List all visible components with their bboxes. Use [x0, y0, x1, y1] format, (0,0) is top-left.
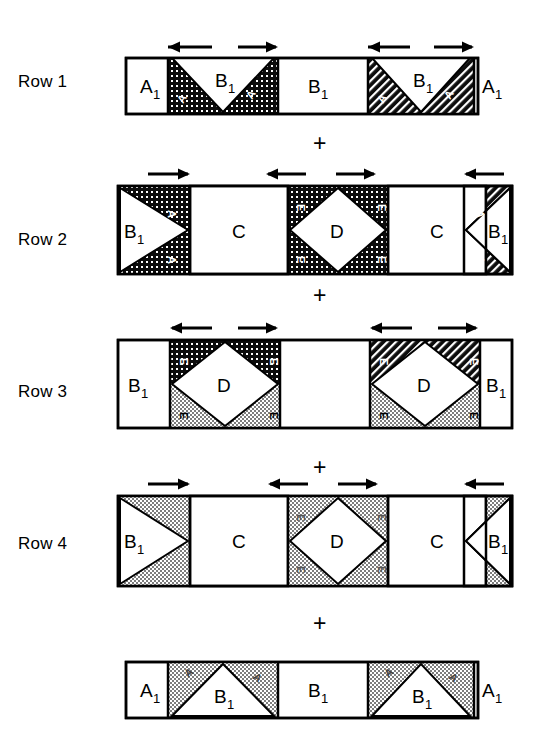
- row-4-label: Row 4: [18, 534, 67, 554]
- cell-sub-b1-right: 1: [426, 81, 433, 96]
- row-5-band: A 1 B 1 B 1 B 1 A 1 A A A A: [126, 662, 502, 718]
- e-tag-tl: E: [295, 204, 307, 211]
- row-2-arrow-markers: [148, 169, 504, 180]
- row-3-arrow-markers: [170, 323, 478, 334]
- a2-tag-l-bot: A: [166, 256, 178, 264]
- cell-sub-b1-left: 1: [137, 542, 144, 557]
- operator-plus-1: +: [313, 132, 326, 155]
- e-tag-bl: E: [295, 256, 307, 263]
- cell-label-b1-left: B: [124, 531, 137, 552]
- cell-label-b1-right: B: [486, 375, 499, 396]
- row-4-arrow-markers: [148, 479, 504, 490]
- row-3-label: Row 3: [18, 382, 67, 402]
- cell-sub-a1-right: 1: [495, 87, 502, 102]
- e-tag-tr: E: [376, 204, 388, 211]
- cell-label-d: D: [330, 531, 344, 552]
- row-3-figure: B 1 D D B 1 E E E E E E E E: [0, 312, 550, 442]
- cell-label-a1-right: A: [482, 76, 495, 97]
- cell-label-b1-right: B: [412, 686, 425, 707]
- cell-label-d: D: [330, 221, 344, 242]
- cell-sub-b1-mid: 1: [321, 691, 328, 706]
- cell-label-b1-left: B: [124, 221, 137, 242]
- cell-label-b1-left: B: [214, 686, 227, 707]
- cell-sub-b1-right: 1: [425, 697, 432, 712]
- row-3-band: B 1 D D B 1 E E E E E E E E: [118, 340, 512, 428]
- row-4-figure: B 1 C D C B 1 E E E E: [0, 466, 550, 596]
- e-tag-r-tl: E: [378, 358, 390, 365]
- diagram-canvas: Row 1: [0, 0, 550, 738]
- cell-label-b1-left: B: [128, 375, 141, 396]
- cell-sub-b1-mid: 1: [321, 87, 328, 102]
- row-5-figure: A 1 B 1 B 1 B 1 A 1 A A A A: [0, 648, 550, 728]
- e-tag-l-br: E: [268, 412, 280, 419]
- cell-label-b1-right: B: [413, 70, 426, 91]
- row-1-band: A 1 B 1 B 1 B 1 A 1 A A A A: [126, 58, 502, 114]
- cell-label-d-right: D: [417, 375, 431, 396]
- e-tag-l-tl: E: [178, 358, 190, 365]
- row-1-arrow-markers: [168, 42, 474, 53]
- row-2-group: Row 2: [0, 160, 550, 290]
- e-tag-l-tr: E: [268, 358, 280, 365]
- a2-tag-r-bot: A: [474, 256, 486, 264]
- cell-sub-b1-right: 1: [499, 386, 506, 401]
- e-tag-tl: E: [295, 514, 307, 521]
- cell-label-c-left: C: [232, 221, 246, 242]
- cell-sub-b1-left: 1: [137, 232, 144, 247]
- row-2-label: Row 2: [18, 230, 67, 250]
- e-tag-tr: E: [376, 514, 388, 521]
- cell-label-b1-left: B: [215, 70, 228, 91]
- row-1-group: Row 1: [0, 34, 550, 124]
- cell-sub-b1-right: 1: [501, 232, 508, 247]
- cell-sub-b1-left: 1: [228, 81, 235, 96]
- cell-label-b1-right: B: [488, 221, 501, 242]
- e-tag-r-tr: E: [468, 358, 480, 365]
- cell-label-d-left: D: [217, 375, 231, 396]
- row-1-figure: A 1 B 1 B 1 B 1 A 1 A A A A: [0, 34, 550, 124]
- row-4-group: Row 4: [0, 466, 550, 596]
- e-tag-l-bl: E: [178, 412, 190, 419]
- row-3-group: Row 3: [0, 312, 550, 442]
- cell-label-b1-mid: B: [308, 76, 321, 97]
- cell-sub-a1-left: 1: [153, 691, 160, 706]
- row-2-band: B 1 C D C B 1 A A E E E E A A: [118, 186, 512, 274]
- cell-label-b1-right: B: [488, 531, 501, 552]
- a2-tag-l-top: A: [166, 210, 178, 218]
- row-2-figure: B 1 C D C B 1 A A E E E E A A: [0, 160, 550, 290]
- cell-sub-b1-left: 1: [227, 697, 234, 712]
- e-tag-br: E: [376, 256, 388, 263]
- cell-label-a1-left: A: [140, 76, 153, 97]
- operator-plus-2: +: [313, 284, 326, 307]
- e-tag-r-br: E: [468, 412, 480, 419]
- cell-label-a1-right: A: [482, 680, 495, 701]
- cell-label-c-right: C: [430, 531, 444, 552]
- cell-sub-a1-right: 1: [495, 691, 502, 706]
- cell-label-a1-left: A: [140, 680, 153, 701]
- e-tag-br: E: [376, 566, 388, 573]
- cell-sub-b1-right: 1: [501, 542, 508, 557]
- a2-tag-r-top: A: [474, 210, 486, 218]
- row-4-band: B 1 C D C B 1 E E E E: [118, 496, 512, 586]
- cell-sub-b1-left: 1: [141, 386, 148, 401]
- row-5-group: A 1 B 1 B 1 B 1 A 1 A A A A: [0, 648, 550, 728]
- cell-label-c-right: C: [430, 221, 444, 242]
- cell-label-c-left: C: [232, 531, 246, 552]
- row-1-label: Row 1: [18, 72, 67, 92]
- e-tag-bl: E: [295, 566, 307, 573]
- operator-plus-4: +: [313, 612, 326, 635]
- cell-label-b1-mid: B: [308, 680, 321, 701]
- cell-sub-a1-left: 1: [153, 87, 160, 102]
- e-tag-r-bl: E: [378, 412, 390, 419]
